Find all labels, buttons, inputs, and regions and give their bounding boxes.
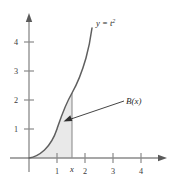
shaded-area-region: [29, 94, 72, 158]
y-tick-label-2: 2: [14, 96, 18, 105]
x-tick-label-1: 1: [55, 167, 59, 176]
graph-canvas: 1 2 3 4 1 2 3 4 x y = t2 B(x): [0, 0, 180, 183]
function-label-text: y = t: [95, 18, 113, 28]
region-label: B(x): [126, 96, 142, 106]
x-tick-label-3: 3: [111, 167, 115, 176]
y-tick-label-1: 1: [14, 125, 18, 134]
region-leader-line: [68, 101, 124, 120]
y-axis-arrowhead: [26, 13, 32, 22]
x-axis-arrowhead: [158, 155, 167, 161]
figure-container: 1 2 3 4 1 2 3 4 x y = t2 B(x): [0, 0, 180, 183]
function-label: y = t2: [95, 18, 115, 28]
x-marker-label: x: [69, 164, 74, 174]
y-tick-label-4: 4: [14, 38, 18, 47]
x-tick-label-4: 4: [139, 167, 143, 176]
y-tick-label-3: 3: [14, 67, 18, 76]
function-label-exponent: 2: [112, 18, 115, 24]
x-tick-label-2: 2: [83, 167, 87, 176]
